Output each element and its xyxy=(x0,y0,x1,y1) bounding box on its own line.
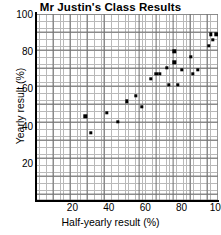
data-point xyxy=(189,55,192,58)
data-point xyxy=(180,68,183,71)
x-axis-label: Half-yearly result (%) xyxy=(0,216,221,228)
data-point xyxy=(214,33,217,36)
x-tick-label: 80 xyxy=(176,202,187,213)
plot-area xyxy=(36,14,218,200)
y-axis-label: Yearly result (%) xyxy=(14,46,26,166)
y-tick-label: 100 xyxy=(0,9,33,20)
x-tick-label: 40 xyxy=(103,202,114,213)
data-point xyxy=(176,83,179,86)
x-tick-label: 20 xyxy=(67,202,78,213)
data-point xyxy=(149,77,152,80)
data-point xyxy=(83,115,86,118)
data-point xyxy=(105,111,108,114)
data-point xyxy=(196,68,199,71)
data-point xyxy=(140,105,143,108)
scatter-chart: Mr Justin's Class Results 20406080100 20… xyxy=(0,0,221,235)
data-point xyxy=(173,49,176,52)
data-point xyxy=(173,61,176,64)
x-axis-line xyxy=(35,200,219,202)
data-point xyxy=(125,100,128,103)
major-gridlines xyxy=(36,14,218,200)
data-point xyxy=(134,94,137,97)
data-point xyxy=(167,83,170,86)
data-point xyxy=(165,66,168,69)
data-point xyxy=(207,44,210,47)
x-tick-label: 60 xyxy=(140,202,151,213)
data-point xyxy=(191,72,194,75)
chart-title: Mr Justin's Class Results xyxy=(0,0,221,14)
data-point xyxy=(209,33,212,36)
data-point xyxy=(89,131,92,134)
data-point xyxy=(158,72,161,75)
data-point xyxy=(211,38,214,41)
data-point xyxy=(116,120,119,123)
y-axis-line xyxy=(35,12,37,202)
x-tick-label: 100 xyxy=(210,202,221,213)
